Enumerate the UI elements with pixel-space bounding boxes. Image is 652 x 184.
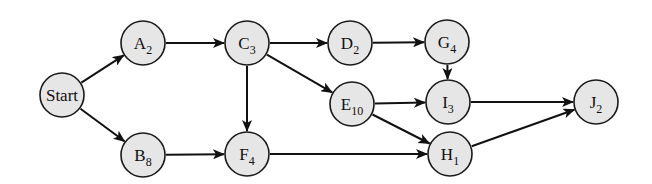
node-start: Start bbox=[40, 73, 84, 117]
edge-e-to-i bbox=[375, 103, 425, 104]
node-g: G4 bbox=[425, 20, 469, 64]
edge-start-to-a bbox=[81, 55, 123, 82]
node-b: B8 bbox=[121, 133, 165, 177]
node-f: F4 bbox=[225, 132, 269, 176]
node-j: J2 bbox=[574, 80, 618, 124]
edge-d-to-g bbox=[373, 42, 424, 43]
edge-h-to-j bbox=[472, 110, 575, 147]
edge-c-to-e bbox=[267, 55, 332, 93]
edge-b-to-f bbox=[166, 154, 224, 155]
node-a: A2 bbox=[121, 21, 165, 65]
node-d: D2 bbox=[328, 21, 372, 65]
network-diagram: StartA2B8C3D2G4E10I3F4H1J2 bbox=[0, 0, 652, 184]
node-i: I3 bbox=[426, 80, 470, 124]
edge-e-to-h bbox=[373, 115, 430, 144]
node-label: Start bbox=[46, 86, 78, 105]
node-e: E10 bbox=[330, 82, 374, 126]
node-c: C3 bbox=[225, 21, 269, 65]
edge-start-to-b bbox=[81, 109, 125, 142]
node-h: H1 bbox=[428, 132, 472, 176]
